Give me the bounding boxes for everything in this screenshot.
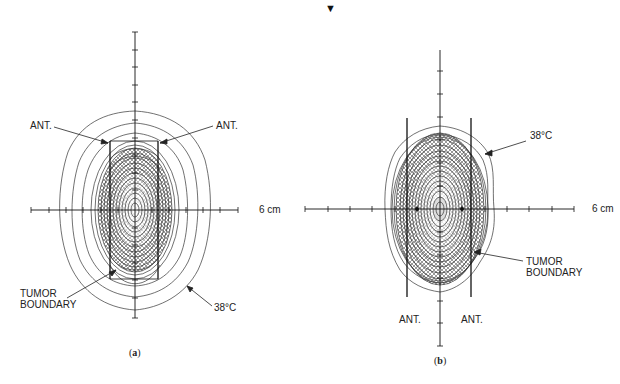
panel-b-figure [305, 50, 574, 346]
scale-label-a: 6 cm [259, 204, 281, 215]
tumor-boundary-label-b: TUMOR BOUNDARY [526, 256, 583, 278]
tumor-boundary-line1-b: TUMOR [526, 256, 563, 267]
ant-label-left-a: ANT. [30, 120, 52, 131]
isotherm-label-a: 38°C [214, 302, 236, 313]
tumor-boundary-line1-a: TUMOR [20, 288, 57, 299]
caption-b: (b) [434, 355, 446, 366]
tumor-boundary-line2-a: BOUNDARY [20, 299, 77, 310]
caption-b-close: ) [443, 355, 446, 366]
tumor-boundary-label-a: TUMOR BOUNDARY [20, 288, 77, 310]
caption-a-close: ) [137, 347, 140, 358]
scale-label-b: 6 cm [592, 203, 614, 214]
ant-label-left-b: ANT. [399, 314, 421, 325]
isotherm-label-b: 38°C [530, 130, 552, 141]
tumor-boundary-line2-b: BOUNDARY [526, 267, 583, 278]
caption-a: (a) [129, 347, 141, 358]
panel-a-figure [31, 32, 238, 318]
ant-label-right-a: ANT. [216, 120, 238, 131]
isotherm-diagram [0, 0, 620, 384]
ant-label-right-b: ANT. [461, 314, 483, 325]
